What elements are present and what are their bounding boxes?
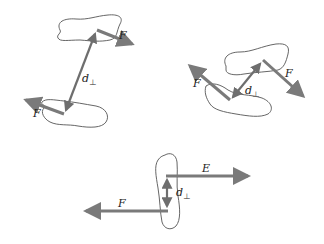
- distance-arrow: [66, 34, 95, 110]
- force-label-left: F: [117, 197, 126, 210]
- distance-subscript: ⊥: [89, 78, 97, 87]
- diagram-top-right: F F d ⊥: [190, 44, 303, 116]
- distance-subscript: ⊥: [252, 90, 260, 99]
- force-label-left: F: [192, 77, 201, 90]
- force-label-right: E: [201, 162, 210, 175]
- diagram-bottom: E F d ⊥: [86, 154, 248, 229]
- force-label-upper: F: [118, 29, 127, 42]
- diagram-top-left: F F d ⊥: [26, 15, 132, 127]
- distance-label: d: [82, 72, 89, 85]
- force-couple-diagrams: F F d ⊥ F F d ⊥ E F d ⊥: [0, 0, 324, 244]
- foot-outline-upper: [225, 44, 289, 75]
- foot-outline-lower: [42, 100, 108, 128]
- force-arrow-right: [263, 60, 303, 96]
- force-label-lower: F: [32, 107, 41, 120]
- distance-label: d: [245, 84, 252, 97]
- force-arrow-lower: [26, 100, 64, 114]
- distance-label: d: [176, 186, 183, 199]
- force-arrow-upper: [97, 30, 132, 44]
- force-label-right: F: [284, 67, 293, 80]
- distance-subscript: ⊥: [183, 192, 191, 201]
